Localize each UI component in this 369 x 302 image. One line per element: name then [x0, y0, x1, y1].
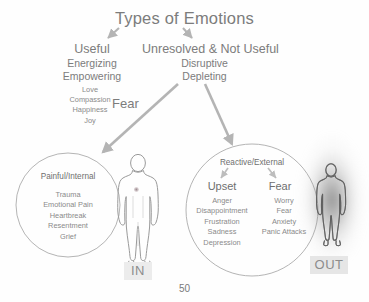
fear-item-1: Fear	[248, 206, 320, 216]
arrow-depleting-to-reactive	[205, 84, 232, 144]
reactive-external-title: Reactive/External	[196, 158, 308, 167]
painful-item-1: Emotional Pain	[14, 200, 122, 210]
arrow-title-to-useful	[108, 28, 119, 38]
upset-heading: Upset	[194, 180, 250, 192]
useful-emotion-0: Love	[46, 85, 134, 95]
fear-item-3: Panic Attacks	[248, 227, 320, 237]
fear-item-0: Worry	[248, 196, 320, 206]
in-label: IN	[124, 262, 152, 280]
useful-emotion-3: Joy	[46, 116, 134, 126]
unresolved-sub-1: Depleting	[142, 70, 267, 83]
unresolved-subheadings: Disruptive Depleting	[142, 57, 267, 83]
painful-internal-title: Painful/Internal	[14, 172, 122, 181]
unresolved-sub-0: Disruptive	[142, 57, 267, 70]
arrow-reactive-to-fear	[268, 168, 276, 178]
slide-canvas: Types of Emotions	[0, 0, 369, 302]
page-title: Types of Emotions	[0, 9, 369, 28]
useful-sub-0: Energizing	[42, 57, 142, 70]
unresolved-heading: Unresolved & Not Useful	[142, 42, 342, 56]
painful-item-0: Trauma	[14, 190, 122, 200]
out-label: OUT	[310, 256, 348, 274]
useful-subheadings: Energizing Empowering	[42, 57, 142, 83]
painful-internal-list: Trauma Emotional Pain Heartbreak Resentm…	[14, 190, 122, 242]
fear-item-2: Anxiety	[248, 217, 320, 227]
useful-sub-1: Empowering	[42, 70, 142, 83]
arrow-reactive-to-upset	[221, 168, 228, 178]
human-figure-in	[118, 154, 159, 268]
upset-item-4: Depression	[181, 238, 263, 248]
painful-item-2: Heartbreak	[14, 211, 122, 221]
useful-heading: Useful	[42, 42, 142, 56]
useful-side-label-fear: Fear	[112, 96, 139, 111]
fear-list: Worry Fear Anxiety Panic Attacks	[248, 196, 320, 238]
arrow-title-to-unresolved	[183, 28, 192, 38]
chest-mark-icon	[134, 187, 139, 192]
painful-item-4: Grief	[14, 232, 122, 242]
painful-item-3: Resentment	[14, 221, 122, 231]
fear-heading: Fear	[252, 180, 308, 192]
page-number: 50	[0, 283, 369, 294]
